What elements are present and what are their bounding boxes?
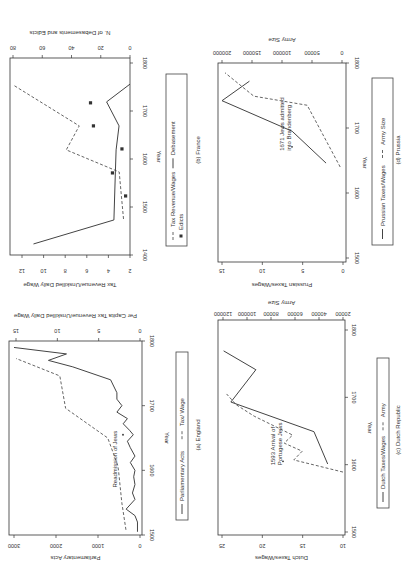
x-tick-label: 1600 xyxy=(142,153,148,165)
y-tick-label: 0 xyxy=(138,543,141,549)
annotation-text: 1593 Arrival of xyxy=(270,427,276,466)
legend-label: Dutch Taxes/Wages xyxy=(380,436,386,489)
plot-frame xyxy=(218,63,346,262)
y-tick-label: 10 xyxy=(340,543,346,549)
legend-label: Tax/ Wage xyxy=(179,397,185,426)
series-line-debasement xyxy=(33,84,130,244)
y-tick-label: 5 xyxy=(301,268,304,274)
x-tick-label: 1500 xyxy=(149,529,155,541)
y2-axis-title: Army Size xyxy=(268,37,296,43)
y-axis-title: Tax Revenue/Unskilled Daily Wage xyxy=(23,282,117,288)
y2-tick-label: 50000 xyxy=(304,50,319,56)
series-line-parliamentary-acts xyxy=(14,347,137,531)
x-tick-label: 1600 xyxy=(354,187,360,199)
legend: Prussian Taxes/WagesArmy Size xyxy=(380,117,386,239)
panel-caption: (d) Prussia xyxy=(395,135,401,165)
x-tick-label: 1700 xyxy=(354,122,360,134)
y2-tick-label: 15 xyxy=(13,328,19,334)
legend: Dutch Taxes/WagesArmy xyxy=(380,403,386,502)
y2-tick-label: 5 xyxy=(97,328,100,334)
panel-caption: (c) Dutch Republic xyxy=(395,405,401,454)
y2-tick-label: 0 xyxy=(340,50,343,56)
x-tick-label: 1500 xyxy=(351,526,357,538)
y-tick-label: 2000 xyxy=(50,543,62,549)
y2-tick-label: 150000 xyxy=(243,50,261,56)
x-tick-label: 1600 xyxy=(149,464,155,476)
figure-canvas: 14001500160017001800Year24681012Tax Reve… xyxy=(0,0,409,564)
y2-tick-label: 100000 xyxy=(238,311,256,317)
annotation-text: Portugese Jews xyxy=(277,423,283,466)
x-axis-title: Year xyxy=(156,150,162,162)
x-tick-label: 1700 xyxy=(142,105,148,117)
series-line-prussian-taxes-wages xyxy=(222,81,326,163)
y2-tick-label: 40000 xyxy=(311,311,326,317)
series-line-army xyxy=(227,394,343,472)
data-point-edicts xyxy=(92,124,95,127)
y-tick-label: 10 xyxy=(41,268,47,274)
legend-label: Prussian Taxes/Wages xyxy=(380,165,386,226)
legend-label: Debasement xyxy=(170,121,176,155)
legend-label: Army xyxy=(380,403,386,417)
chart-panel-france: 14001500160017001800Year24681012Tax Reve… xyxy=(10,30,201,288)
annotation-text: Readmission of Jews xyxy=(112,431,118,488)
data-point-edicts xyxy=(111,171,114,174)
series-line-tax-revenue-wages xyxy=(13,85,123,219)
legend-label: Parliamentary Acts xyxy=(179,451,185,501)
y-tick-label: 0 xyxy=(341,268,344,274)
legend-label: Tax Revenue/Wages xyxy=(170,172,176,227)
y-tick-label: 20 xyxy=(259,543,265,549)
y-tick-label: 15 xyxy=(219,268,225,274)
panel-caption: (a) England xyxy=(195,419,201,450)
data-point-edicts xyxy=(124,194,127,197)
data-point-edicts xyxy=(89,101,92,104)
legend-label: Edicts xyxy=(178,214,184,230)
x-tick-label: 1800 xyxy=(149,335,155,347)
series-line-tax-wage xyxy=(16,358,126,529)
x-axis-title: Year xyxy=(164,432,170,444)
y-tick-label: 10 xyxy=(259,268,265,274)
x-tick-label: 1800 xyxy=(351,324,357,336)
panel-caption: (b) France xyxy=(195,136,201,164)
y-tick-label: 1000 xyxy=(92,543,104,549)
x-tick-label: 1600 xyxy=(351,459,357,471)
x-axis-title: Year xyxy=(367,421,373,433)
x-tick-label: 1700 xyxy=(351,391,357,403)
x-tick-label: 1800 xyxy=(142,57,148,69)
y2-axis-title: N. of Debasements and Edicts xyxy=(29,30,110,36)
y2-tick-label: 200000 xyxy=(213,50,231,56)
y-axis-title: Parliamentary Acts xyxy=(50,555,100,561)
data-point-edicts xyxy=(120,147,123,150)
y-tick-label: 6 xyxy=(85,268,88,274)
x-tick-label: 1800 xyxy=(354,57,360,69)
y2-tick-label: 0 xyxy=(138,328,141,334)
y-axis-title: Dutch Taxes/Wages xyxy=(255,555,308,561)
plot-frame xyxy=(9,341,142,535)
y2-tick-label: 80 xyxy=(10,45,16,51)
y-tick-label: 12 xyxy=(19,268,25,274)
y2-tick-label: 60 xyxy=(39,45,45,51)
x-tick-label: 1700 xyxy=(149,400,155,412)
y2-tick-label: 20000 xyxy=(335,311,350,317)
legend-swatch-points xyxy=(180,235,183,238)
x-tick-label: 1500 xyxy=(354,252,360,264)
y2-tick-label: 100000 xyxy=(273,50,291,56)
x-axis-title: Year xyxy=(362,156,368,168)
y2-axis-title: Army Size xyxy=(267,300,295,306)
y2-tick-label: 40 xyxy=(68,45,74,51)
y-tick-label: 3000 xyxy=(8,543,20,549)
y-tick-label: 15 xyxy=(300,543,306,549)
y-tick-label: 4 xyxy=(107,268,110,274)
x-tick-label: 1500 xyxy=(142,201,148,213)
y2-tick-label: 120000 xyxy=(214,311,232,317)
y2-tick-label: 0 xyxy=(128,45,131,51)
y2-axis-title: Per Capita Tax Revenue/Unskilled Daily W… xyxy=(13,313,137,319)
chart-panel-england: 1500160017001800Year0100020003000Parliam… xyxy=(8,313,201,561)
y-tick-label: 25 xyxy=(219,543,225,549)
annotation-text: into Brandenberg xyxy=(286,105,292,151)
chart-panel-dutch: 1500160017001800Year10152025Dutch Taxes/… xyxy=(214,300,401,561)
y-tick-label: 2 xyxy=(128,268,131,274)
y2-tick-label: 10 xyxy=(54,328,60,334)
y2-tick-label: 80000 xyxy=(263,311,278,317)
annotation-marker xyxy=(122,434,124,436)
legend: Parliamentary ActsTax/ Wage xyxy=(179,397,185,514)
